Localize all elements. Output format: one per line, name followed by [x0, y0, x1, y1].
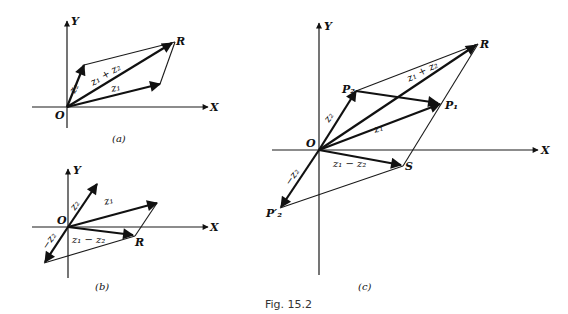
point-P1-label: P₁	[444, 99, 458, 112]
vector-z1-label: z₁	[102, 194, 115, 207]
panel-b-caption: (b)	[95, 281, 109, 292]
point-R-label: R	[479, 38, 489, 51]
figure-15-2: Y X O R z₁ z₂ z₁ + z₂ (a) Y X O R z₁ z₂ …	[0, 0, 568, 314]
figure-caption: Fig. 15.2	[265, 298, 312, 311]
vector-diff-label: z₁ − z₂	[71, 234, 105, 245]
panel-a-caption: (a)	[112, 133, 126, 144]
y-axis-label: Y	[324, 20, 333, 33]
point-R-label: R	[134, 236, 144, 249]
origin-label: O	[57, 214, 67, 227]
vector-z2-label: z₂	[321, 110, 336, 125]
y-axis-label: Y	[71, 15, 80, 28]
origin-label: O	[306, 137, 316, 150]
x-axis-label: X	[209, 221, 219, 234]
panel-b: Y X O R z₁ z₂ −z₂ z₁ − z₂ (b)	[32, 164, 219, 292]
point-P2-label: P₂	[341, 83, 355, 96]
vector-neg-z2-label: −z₂	[282, 166, 301, 187]
point-P2prime-label: P′₂	[265, 207, 282, 220]
point-S-label: S	[405, 160, 413, 173]
x-axis-label: X	[540, 144, 550, 157]
vector-diff-label: z₁ − z₂	[332, 158, 366, 169]
point-R-label: R	[175, 35, 185, 48]
origin-label: O	[55, 109, 65, 122]
construction-line	[403, 44, 478, 166]
vector-p2-p1	[356, 91, 438, 103]
parallelogram-side	[84, 42, 175, 65]
panel-c-caption: (c)	[358, 281, 372, 292]
vector-sum	[67, 43, 172, 107]
vector-z2-label: z₂	[66, 82, 80, 96]
x-axis-label: X	[209, 101, 219, 114]
vector-z1-label: z₁	[109, 81, 122, 94]
panel-c: Y X O R P₂ P₁ S P′₂ z₁ z₂ z₁ + z₂ z₁ − z…	[265, 20, 550, 292]
panel-a: Y X O R z₁ z₂ z₁ + z₂ (a)	[32, 15, 219, 144]
y-axis-label: Y	[73, 164, 82, 177]
vector-z1-label: z₁	[371, 122, 384, 136]
